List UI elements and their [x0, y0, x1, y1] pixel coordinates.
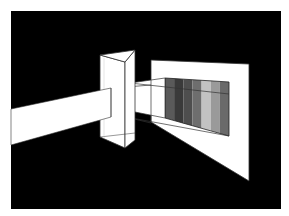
spectrum-band-2	[174, 79, 183, 124]
spectrum-band-5	[202, 80, 211, 131]
spectrum-band-3	[183, 79, 192, 126]
spectrum-band-1	[165, 78, 174, 121]
spectrum-band-4	[192, 80, 201, 129]
spectrum-band-6	[211, 81, 220, 134]
diagram-stage	[0, 0, 289, 216]
spectrum-band-7	[220, 81, 229, 136]
prism-diagram	[0, 0, 289, 216]
